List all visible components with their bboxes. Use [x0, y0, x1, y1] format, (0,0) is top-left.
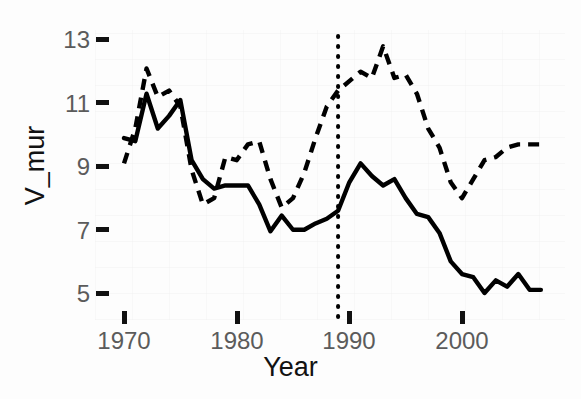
solid-series-path [124, 94, 541, 293]
x-tick-mark-1980 [235, 311, 240, 324]
x-tick-mark-1990 [347, 311, 352, 324]
x-axis-ticks [122, 311, 465, 324]
y-tick-mark-5 [96, 291, 109, 296]
y-tick-mark-7 [96, 227, 109, 232]
x-tick-mark-1970 [122, 311, 127, 324]
plot-area [0, 0, 581, 399]
x-tick-mark-2000 [460, 311, 465, 324]
y-tick-mark-13 [96, 37, 109, 42]
y-axis-ticks [96, 37, 109, 296]
y-tick-mark-9 [96, 164, 109, 169]
y-tick-mark-11 [96, 100, 109, 105]
chart-figure: V_mur Year 13 11 9 7 5 1970 1980 1990 20… [0, 0, 581, 399]
